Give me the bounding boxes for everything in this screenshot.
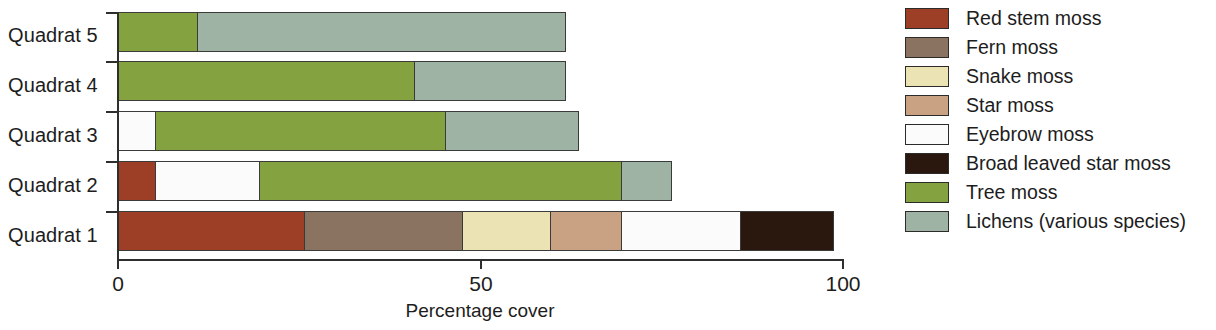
y-axis-line (117, 12, 119, 260)
stacked-bar-chart-figure: Quadrat 5 Quadrat 4 Quadrat 3 Quadrat 2 … (0, 0, 1216, 330)
legend-label: Tree moss (966, 181, 1057, 204)
x-axis-tick-50 (480, 259, 482, 269)
bar-segment (621, 211, 741, 251)
legend-swatch (905, 95, 949, 116)
bar-segment (155, 161, 260, 201)
y-axis-tick (106, 111, 118, 113)
bar-segment (117, 161, 157, 201)
bar-segment (117, 12, 198, 52)
x-axis-tick-0 (117, 259, 119, 269)
y-axis-tick (106, 61, 118, 63)
x-axis-title: Percentage cover (406, 300, 555, 322)
legend-swatch (905, 37, 949, 58)
legend-item[interactable]: Eyebrow moss (905, 120, 1215, 149)
bar-segment (445, 111, 578, 151)
category-label-quadrat-5: Quadrat 5 (8, 24, 98, 47)
bar-segment (197, 12, 567, 52)
bar-segment (462, 211, 552, 251)
bar-segment (117, 61, 416, 101)
y-axis-tick (106, 12, 118, 14)
legend-swatch (905, 124, 949, 145)
legend-item[interactable]: Lichens (various species) (905, 207, 1215, 236)
bar-segment (621, 161, 672, 201)
bar-segment (117, 111, 156, 151)
x-axis-tick-label-50: 50 (469, 272, 492, 296)
legend-label: Red stem moss (966, 7, 1101, 30)
bar-segment (259, 161, 623, 201)
legend-label: Eyebrow moss (966, 123, 1094, 146)
legend-swatch (905, 182, 949, 203)
bar-row (117, 161, 672, 201)
plot-area: Quadrat 5 Quadrat 4 Quadrat 3 Quadrat 2 … (0, 0, 900, 330)
legend-label: Fern moss (966, 36, 1058, 59)
x-axis-tick-100 (842, 259, 844, 269)
legend-swatch (905, 8, 949, 29)
x-axis-tick-label-0: 0 (112, 272, 124, 296)
legend-item[interactable]: Red stem moss (905, 4, 1215, 33)
category-label-quadrat-4: Quadrat 4 (8, 74, 98, 97)
category-label-quadrat-1: Quadrat 1 (8, 224, 98, 247)
legend-label: Star moss (966, 94, 1054, 117)
bar-segment (304, 211, 464, 251)
legend-item[interactable]: Snake moss (905, 62, 1215, 91)
bar-segment (155, 111, 447, 151)
bar-segment (414, 61, 566, 101)
bar-segment (550, 211, 623, 251)
legend-item[interactable]: Star moss (905, 91, 1215, 120)
bar-row (117, 12, 566, 52)
y-axis-tick (106, 211, 118, 213)
bar-segment (740, 211, 834, 251)
bar-row (117, 211, 834, 251)
legend-item[interactable]: Broad leaved star moss (905, 149, 1215, 178)
legend-item[interactable]: Fern moss (905, 33, 1215, 62)
y-axis-tick (106, 161, 118, 163)
legend-swatch (905, 153, 949, 174)
legend-item[interactable]: Tree moss (905, 178, 1215, 207)
category-label-quadrat-2: Quadrat 2 (8, 174, 98, 197)
bar-row (117, 111, 579, 151)
legend-swatch (905, 66, 949, 87)
chart-legend: Red stem mossFern mossSnake mossStar mos… (905, 4, 1215, 236)
bar-segment (117, 211, 306, 251)
x-axis-tick-label-100: 100 (825, 272, 860, 296)
category-label-quadrat-3: Quadrat 3 (8, 124, 98, 147)
legend-label: Snake moss (966, 65, 1073, 88)
bar-row (117, 61, 566, 101)
legend-swatch (905, 211, 949, 232)
legend-label: Lichens (various species) (966, 210, 1186, 233)
legend-label: Broad leaved star moss (966, 152, 1171, 175)
